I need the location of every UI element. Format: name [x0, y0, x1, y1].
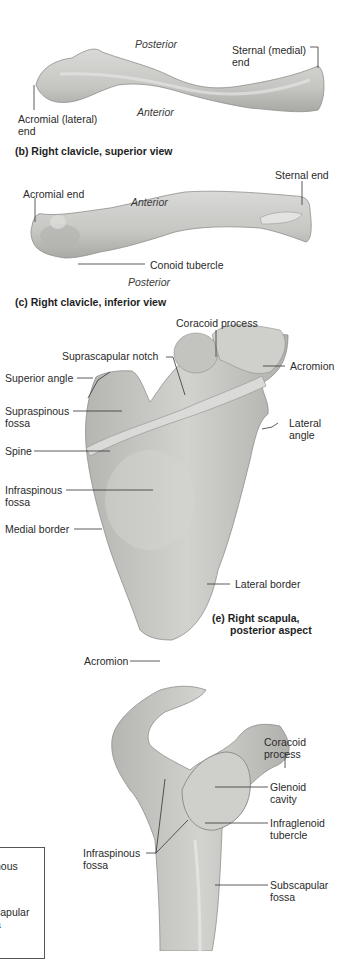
label-glenoid-cavity-l2: cavity — [270, 793, 297, 805]
label-infraglenoid-tubercle-l1: Infraglenoid — [270, 817, 325, 829]
label-anterior-b: Anterior — [137, 106, 174, 118]
legend-text-line2: capular — [0, 906, 29, 918]
label-acromial-end-c: Acromial end — [23, 188, 84, 200]
caption-e-l2: posterior aspect — [230, 624, 312, 636]
label-spine: Spine — [5, 445, 32, 457]
label-glenoid-cavity-l1: Glenoid — [270, 781, 306, 793]
label-coracoid-process-e: Coracoid process — [176, 317, 258, 329]
label-coracoid-process-f-l2: process — [264, 748, 301, 760]
label-subscapular-fossa-l2: fossa — [270, 891, 295, 903]
clavicle-inferior-view — [31, 191, 311, 258]
label-suprascapular-notch: Suprascapular notch — [62, 350, 158, 362]
label-acromion-e: Acromion — [290, 360, 334, 372]
label-conoid-tubercle: Conoid tubercle — [150, 259, 224, 271]
clavicle-superior-view — [36, 49, 324, 112]
label-infraglenoid-tubercle-l2: tubercle — [270, 829, 307, 841]
label-lateral-angle-l1: Lateral — [289, 417, 321, 429]
label-sternal-medial-end-l2: end — [232, 56, 250, 68]
label-infraspinous-fossa-e-l2: fossa — [5, 496, 30, 508]
label-lateral-angle-l2: angle — [289, 429, 315, 441]
legend-text-line3: a — [0, 918, 1, 930]
label-infraspinous-fossa-e-l1: Infraspinous — [5, 484, 62, 496]
label-superior-angle: Superior angle — [5, 372, 73, 384]
label-supraspinous-fossa-l1: Supraspinous — [5, 405, 69, 417]
label-sternal-end-c: Sternal end — [275, 169, 329, 181]
label-anterior-c: Anterior — [131, 196, 168, 208]
caption-c: (c) Right clavicle, inferior view — [15, 296, 166, 308]
label-posterior-c: Posterior — [128, 276, 170, 288]
label-posterior-b: Posterior — [135, 38, 177, 50]
label-acromial-lateral-end-l2: end — [18, 125, 36, 137]
label-acromial-lateral-end-l1: Acromial (lateral) — [18, 113, 97, 125]
scapula-lateral-view — [112, 686, 289, 951]
label-infraspinous-fossa-f-l2: fossa — [83, 859, 108, 871]
scapula-posterior-view — [85, 325, 288, 640]
label-lateral-border: Lateral border — [235, 578, 300, 590]
caption-e-l1: (e) Right scapula, — [212, 612, 300, 624]
caption-b: (b) Right clavicle, superior view — [15, 145, 173, 157]
legend-text-line1: nous — [0, 860, 18, 872]
partial-legend-box: nous capular a — [0, 847, 45, 959]
label-coracoid-process-f-l1: Coracoid — [264, 736, 306, 748]
label-medial-border: Medial border — [5, 523, 69, 535]
label-subscapular-fossa-l1: Subscapular — [270, 879, 328, 891]
label-acromion-f: Acromion — [84, 655, 128, 667]
label-infraspinous-fossa-f-l1: Infraspinous — [83, 847, 140, 859]
label-sternal-medial-end-l1: Sternal (medial) — [232, 44, 306, 56]
label-supraspinous-fossa-l2: fossa — [5, 417, 30, 429]
